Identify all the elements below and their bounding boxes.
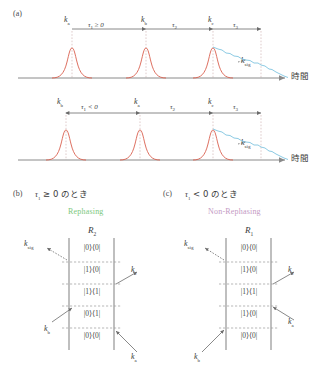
panel-c-arrow-ka xyxy=(273,307,294,320)
panel-c-arrow-ksig xyxy=(205,248,224,260)
panel-c-graphics xyxy=(0,0,322,372)
figure-root: (a) ka kb kc τ1 ≥ 0 τ2 τ3 ksig 時間 kb ka … xyxy=(0,0,322,372)
panel-c-arrow-kc xyxy=(273,272,294,284)
panel-c-arrow-kb xyxy=(202,330,224,352)
